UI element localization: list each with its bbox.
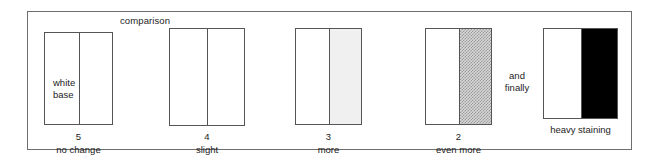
swatch-patch-heavy-staining[interactable] [543,28,618,119]
swatch-patch-4[interactable] [169,28,245,126]
swatch-score-5: 5 [44,130,113,143]
swatch-half-left-heavy-staining [544,29,581,118]
and-finally-line2: finally [505,82,529,93]
white-base-label: white base [53,77,75,101]
swatch-desc-2: even more [425,143,492,156]
swatch-patch-2[interactable] [425,28,492,125]
swatch-half-left-3 [296,29,329,124]
white-base-line1: white [53,77,75,88]
swatch-score-3: 3 [295,130,362,143]
figure-frame: comparison white base 5 no change [27,11,632,150]
swatch-half-right-2 [459,29,492,124]
swatch-group-3: 3 more [295,12,362,151]
swatch-caption-5: 5 no change [44,130,113,156]
swatch-group-2: 2 even more [425,12,492,151]
white-base-line2: base [53,89,74,100]
swatch-half-right-heavy-staining [581,29,618,118]
swatch-half-right-3 [329,29,362,124]
swatch-desc-4: slight [169,143,245,156]
swatch-caption-3: 3 more [295,130,362,156]
swatch-caption-heavy-staining: heavy staining [537,123,624,136]
swatch-score-4: 4 [169,130,245,143]
swatch-half-left-5: white base [45,33,79,124]
swatch-half-left-4 [170,29,207,125]
swatch-half-right-4 [207,29,244,125]
swatch-score-2: 2 [425,130,492,143]
swatch-caption-2: 2 even more [425,130,492,156]
swatch-half-left-2 [426,29,459,124]
and-finally-line1: and [509,70,525,81]
swatch-caption-4: 4 slight [169,130,245,156]
swatch-row: white base 5 no change 4 slight [28,12,633,151]
and-finally-note: and finally [494,70,540,94]
swatch-half-right-5 [79,33,113,124]
swatch-group-4: 4 slight [169,12,245,151]
swatch-group-5: white base 5 no change [44,12,113,151]
swatch-desc-heavy-staining: heavy staining [537,123,624,136]
swatch-patch-3[interactable] [295,28,362,125]
swatch-desc-5: no change [44,143,113,156]
swatch-desc-3: more [295,143,362,156]
swatch-patch-5[interactable]: white base [44,32,113,125]
swatch-group-heavy-staining: heavy staining [543,12,618,151]
